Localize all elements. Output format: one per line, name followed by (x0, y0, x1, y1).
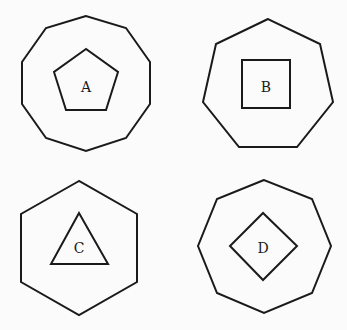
figure-c: C (21, 181, 137, 315)
figure-a: A (22, 16, 150, 151)
figure-b: B (203, 19, 333, 147)
polygon-diagram: A B C D (0, 0, 347, 330)
inner-triangle (51, 213, 108, 264)
figure-d: D (198, 180, 331, 313)
label-d: D (257, 240, 268, 256)
label-a: A (80, 79, 92, 95)
label-c: C (74, 240, 85, 256)
label-b: B (261, 79, 271, 95)
